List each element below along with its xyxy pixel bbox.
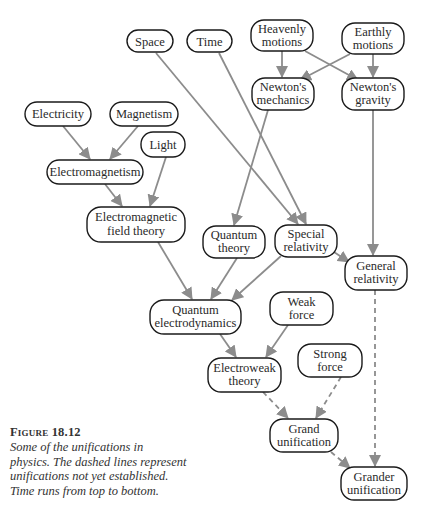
svg-text:Strong: Strong (313, 347, 347, 361)
node-special-relativity: Special relativity (275, 225, 337, 257)
svg-text:Quantum: Quantum (211, 228, 258, 242)
caption-line-3: unifications not yet established. (10, 469, 190, 484)
svg-text:motions: motions (353, 38, 393, 52)
node-light: Light (141, 132, 185, 157)
node-general-relativity: General relativity (345, 256, 407, 290)
svg-text:Newton's: Newton's (350, 80, 397, 94)
node-earthly-motions: Earthly motions (342, 23, 404, 54)
svg-text:Electromagnetism: Electromagnetism (50, 165, 141, 179)
edge-earthly-to-mechanics (300, 54, 350, 80)
svg-text:Newton's: Newton's (260, 80, 307, 94)
svg-text:mechanics: mechanics (257, 93, 310, 107)
svg-text:unification: unification (347, 483, 402, 497)
node-electromagnetic-field-theory: Electromagnetic field theory (87, 207, 185, 242)
svg-text:Electroweak: Electroweak (213, 361, 276, 375)
svg-text:Heavenly: Heavenly (258, 22, 307, 36)
node-strong-force: Strong force (298, 344, 362, 377)
svg-text:motions: motions (262, 35, 302, 49)
svg-text:force: force (289, 308, 315, 322)
svg-text:Time: Time (197, 35, 223, 49)
svg-text:relativity: relativity (283, 240, 329, 254)
svg-text:Magnetism: Magnetism (116, 107, 173, 121)
node-newtons-gravity: Newton's gravity (342, 78, 404, 110)
edge-weak-to-electroweak (266, 325, 288, 357)
node-grand-unification: Grand unification (270, 419, 338, 452)
node-weak-force: Weak force (270, 292, 333, 325)
edge-special-to-general-relativity (334, 252, 349, 262)
figure-caption: Figure 18.12 Some of the unifications in… (10, 424, 190, 498)
edge-strong-to-grand (316, 377, 341, 418)
caption-line-4: Time runs from top to bottom. (10, 484, 190, 499)
edge-special-relativity-to-qed (232, 256, 281, 300)
svg-text:field theory: field theory (107, 224, 166, 238)
caption-line-1: Some of the unifications in (10, 440, 190, 455)
svg-text:General: General (356, 259, 396, 273)
svg-text:Light: Light (149, 138, 177, 152)
node-quantum-electrodynamics: Quantum electrodynamics (150, 300, 241, 334)
svg-text:Earthly: Earthly (355, 25, 393, 39)
node-heavenly-motions: Heavenly motions (251, 20, 313, 51)
svg-text:Electricity: Electricity (32, 107, 85, 121)
figure-label: Figure 18.12 (10, 424, 190, 440)
node-electromagnetism: Electromagnetism (47, 160, 143, 184)
node-electroweak-theory: Electroweak theory (208, 358, 281, 392)
node-space: Space (127, 30, 173, 52)
svg-text:Special: Special (288, 227, 325, 241)
svg-text:electrodynamics: electrodynamics (155, 316, 237, 330)
svg-text:Grander: Grander (354, 470, 396, 484)
node-quantum-theory: Quantum theory (203, 226, 265, 258)
svg-text:gravity: gravity (355, 93, 391, 107)
svg-text:unification: unification (277, 435, 332, 449)
svg-text:Space: Space (135, 35, 165, 49)
svg-text:force: force (317, 360, 343, 374)
edge-electromagnetism-to-emfield (105, 184, 122, 206)
edge-heavenly-to-gravity (305, 51, 358, 80)
edge-electricity-to-electromagnetism (63, 126, 90, 159)
edge-grand-to-grander (331, 452, 350, 468)
edge-electroweak-to-grand (263, 392, 288, 418)
svg-text:theory: theory (229, 374, 262, 388)
edge-qed-to-electroweak (220, 334, 236, 357)
edge-light-to-emfield (150, 157, 166, 206)
node-grander-unification: Grander unification (341, 467, 407, 500)
node-electricity: Electricity (25, 102, 91, 126)
svg-text:theory: theory (218, 241, 251, 255)
svg-text:Electromagnetic: Electromagnetic (95, 210, 177, 224)
svg-text:Grand: Grand (288, 422, 320, 436)
node-newtons-mechanics: Newton's mechanics (252, 78, 314, 110)
svg-text:Quantum: Quantum (172, 303, 219, 317)
node-magnetism: Magnetism (110, 102, 178, 126)
caption-line-2: physics. The dashed lines represent (10, 455, 190, 470)
node-time: Time (187, 30, 232, 52)
edge-mechanics-to-quantum-theory (234, 110, 268, 225)
svg-text:Weak: Weak (287, 295, 316, 309)
edge-emfield-to-qed (158, 242, 192, 299)
edge-magnetism-to-electromagnetism (110, 126, 138, 159)
svg-text:relativity: relativity (353, 272, 399, 286)
edge-quantum-theory-to-qed (211, 258, 237, 299)
